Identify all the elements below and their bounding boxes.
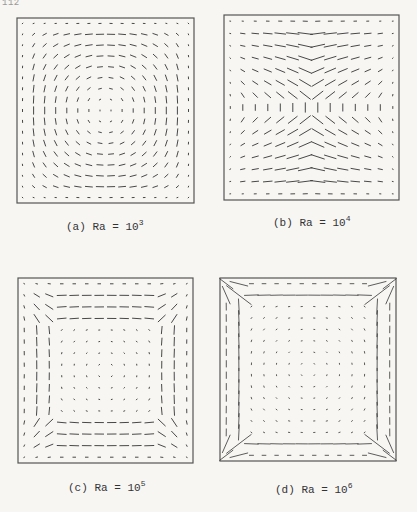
caption-base: 10 bbox=[334, 484, 347, 496]
caption-base: 10 bbox=[332, 217, 345, 229]
caption-label: (a) bbox=[66, 221, 86, 233]
velocity-vectors bbox=[22, 23, 189, 198]
caption-base: 10 bbox=[127, 482, 140, 494]
caption-label: (c) bbox=[68, 482, 88, 494]
caption-exponent: 3 bbox=[139, 218, 144, 227]
caption-d: (d) Ra = 106 bbox=[275, 481, 352, 496]
caption-c: (c) Ra = 105 bbox=[68, 479, 145, 494]
vector-plot-a bbox=[0, 0, 214, 223]
caption-param: Ra bbox=[299, 217, 312, 229]
caption-param: Ra bbox=[92, 221, 105, 233]
caption-param: Ra bbox=[301, 484, 314, 496]
caption-exponent: 5 bbox=[141, 479, 146, 488]
caption-equals: = bbox=[114, 482, 121, 494]
caption-exponent: 6 bbox=[348, 481, 353, 490]
plot-frame bbox=[224, 15, 399, 200]
caption-base: 10 bbox=[125, 221, 138, 233]
caption-b: (b) Ra = 104 bbox=[273, 214, 350, 229]
caption-equals: = bbox=[321, 484, 328, 496]
vector-plot-d bbox=[200, 258, 416, 481]
velocity-vectors bbox=[24, 284, 187, 458]
velocity-vectors bbox=[230, 21, 393, 194]
caption-exponent: 4 bbox=[346, 214, 351, 223]
vector-plot-c bbox=[0, 258, 213, 483]
vector-plot-b bbox=[204, 0, 417, 220]
caption-param: Ra bbox=[94, 482, 107, 494]
caption-equals: = bbox=[319, 217, 326, 229]
plot-frame bbox=[18, 278, 193, 463]
velocity-vectors bbox=[220, 279, 397, 461]
caption-a: (a) Ra = 103 bbox=[66, 218, 143, 233]
caption-label: (d) bbox=[275, 484, 295, 496]
plot-frame bbox=[220, 278, 396, 461]
caption-label: (b) bbox=[273, 217, 293, 229]
caption-equals: = bbox=[112, 221, 119, 233]
